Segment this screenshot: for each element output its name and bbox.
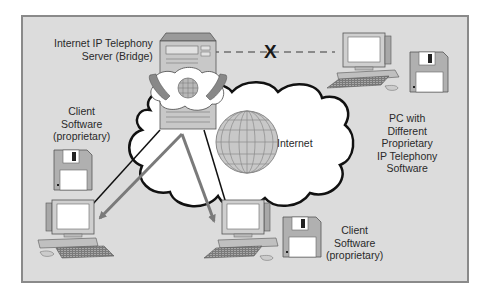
client-left-label-line: Client xyxy=(53,105,110,118)
client-pc-left-icon xyxy=(38,200,114,258)
pc-different-label: PC with Different Proprietary IP Telepho… xyxy=(377,112,437,175)
internet-label: Internet xyxy=(277,137,313,150)
client-bottom-label: Client Software (proprietary) xyxy=(326,224,383,262)
pc-different-label-line: IP Telephony xyxy=(377,150,437,163)
client-left-label-line: Software xyxy=(53,118,110,131)
client-bottom-label-line: (proprietary) xyxy=(326,249,383,262)
floppy-disk-icon xyxy=(410,52,448,92)
pc-different-label-line: Proprietary xyxy=(377,137,437,150)
client-pc-bottom-icon xyxy=(204,200,278,260)
pc-different-icon xyxy=(327,33,399,90)
floppy-disk-icon xyxy=(54,150,92,190)
pc-different-label-line: PC with xyxy=(377,112,437,125)
internet-label-text: Internet xyxy=(277,137,313,150)
client-bottom-label-line: Software xyxy=(326,237,383,250)
floppy-disk-icon xyxy=(283,217,321,257)
server-label-line: Server (Bridge) xyxy=(54,50,153,63)
blocked-x-marker: X xyxy=(264,42,277,61)
server-label: Internet IP Telephony Server (Bridge) xyxy=(54,37,153,62)
pc-different-label-line: Software xyxy=(377,162,437,175)
server-icon xyxy=(149,33,226,129)
client-left-label-line: (proprietary) xyxy=(53,130,110,143)
client-bottom-label-line: Client xyxy=(326,224,383,237)
client-left-label: Client Software (proprietary) xyxy=(53,105,110,143)
globe-icon xyxy=(216,111,278,173)
server-label-line: Internet IP Telephony xyxy=(54,37,153,50)
pc-different-label-line: Different xyxy=(377,125,437,138)
